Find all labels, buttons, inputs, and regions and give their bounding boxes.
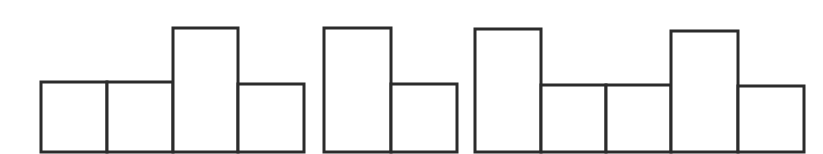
bar-tall (324, 28, 391, 152)
bar-short (541, 85, 606, 152)
bar-short (107, 82, 173, 152)
bar-short (238, 84, 304, 152)
block-diagram (0, 0, 823, 154)
bar-groups (41, 28, 804, 152)
group-1 (41, 28, 304, 152)
bar-short (606, 85, 671, 152)
bar-tall (173, 28, 238, 152)
group-3 (475, 29, 804, 152)
bar-tall (671, 31, 738, 152)
bar-short (391, 84, 457, 152)
group-2 (324, 28, 457, 152)
bar-short (41, 82, 107, 152)
bar-short (738, 86, 804, 152)
bar-tall (475, 29, 541, 152)
